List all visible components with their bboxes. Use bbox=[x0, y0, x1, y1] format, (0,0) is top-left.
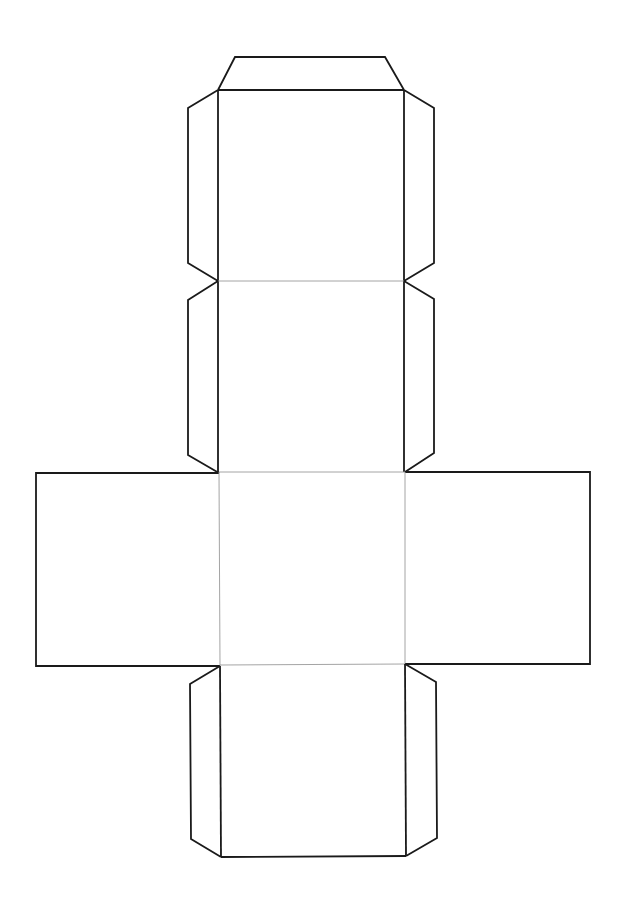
bottom-face-left-edge bbox=[220, 666, 221, 857]
bottom-face-right-edge bbox=[405, 664, 406, 856]
page-background bbox=[0, 0, 625, 912]
cube-net-diagram bbox=[0, 0, 625, 912]
bottom-face-bottom-edge bbox=[221, 856, 406, 857]
